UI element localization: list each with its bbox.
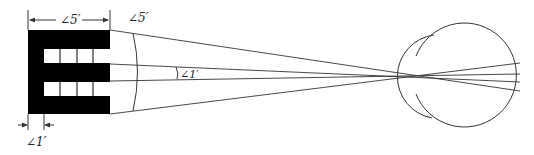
visual-angle-rays [110,30,520,114]
diagram-canvas: ∠5′ ∠1′ [0,0,534,155]
inner-angle-arc [176,67,178,79]
optotype-e [28,30,110,114]
stroke-width-label: ∠1′ [26,135,47,149]
outer-angle-arc [133,33,138,111]
top-width-label: ∠5′ [60,13,81,27]
arc-angle-label: ∠5′ [128,11,149,25]
inner-angle-label: ∠1′ [180,68,199,81]
visual-angle-diagram: ∠5′ ∠1′ [0,0,534,155]
bottom-dimension [18,114,54,130]
